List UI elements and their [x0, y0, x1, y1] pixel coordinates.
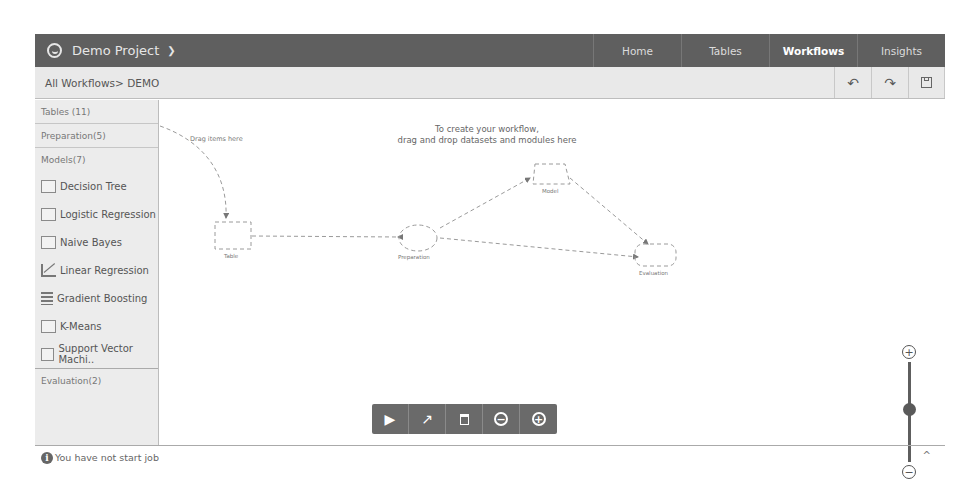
table-node [215, 222, 251, 249]
nav-tables[interactable]: Tables [681, 34, 769, 67]
chevron-down-icon: ❯ [167, 45, 175, 56]
breadcrumb-bar: All Workflows> DEMO ↶ ↷ [35, 67, 945, 99]
svm-icon [41, 348, 54, 361]
redo-button[interactable]: ↷ [871, 67, 908, 98]
nav-home[interactable]: Home [593, 34, 681, 67]
sidebar-item-naive-bayes[interactable]: Naive Bayes [35, 228, 158, 256]
sidebar-item-label: Gradient Boosting [57, 293, 147, 304]
sidebar-item-k-means[interactable]: K-Means [35, 312, 158, 340]
sidebar-item-label: Naive Bayes [60, 237, 122, 248]
zoom-knob[interactable] [903, 403, 916, 416]
table-node-label: Table [224, 253, 238, 259]
status-message: You have not start job [55, 452, 159, 463]
sidebar-item-decision-tree[interactable]: Decision Tree [35, 172, 158, 200]
minus-circle-icon: − [494, 412, 508, 426]
sidebar-item-gradient-boosting[interactable]: Gradient Boosting [35, 284, 158, 312]
top-nav-bar: Demo Project ❯ Home Tables Workflows Ins… [35, 34, 945, 67]
empty-canvas-hint: To create your workflow, drag and drop d… [322, 124, 652, 146]
sidebar-section-models[interactable]: Models(7) [35, 148, 158, 172]
zoom-out-button[interactable]: − [483, 404, 520, 434]
canvas-toolbar: ▶ ↗ − + [372, 404, 557, 434]
hint-line-1: To create your workflow, [322, 124, 652, 135]
connect-button[interactable]: ↗ [409, 404, 446, 434]
run-button[interactable]: ▶ [372, 404, 409, 434]
model-node-label: Model [542, 188, 559, 194]
model-node [533, 164, 570, 184]
evaluation-node-label: Evaluation [639, 270, 668, 276]
workflow-canvas[interactable]: Drag items here To create your workflow,… [160, 100, 945, 445]
delete-button[interactable] [446, 404, 483, 434]
gradient-boosting-icon [41, 292, 53, 305]
main-nav: Home Tables Workflows Insights [593, 34, 945, 67]
sidebar-section-preparation[interactable]: Preparation(5) [35, 124, 158, 148]
k-means-icon [41, 320, 56, 333]
sidebar-section-evaluation[interactable]: Evaluation(2) [35, 369, 158, 393]
zoom-in-button[interactable]: + [520, 404, 557, 434]
undo-icon: ↶ [847, 75, 859, 91]
workflow-tools: ↶ ↷ [834, 67, 945, 98]
preparation-node [399, 225, 437, 251]
info-icon: i [41, 452, 53, 464]
save-icon [921, 77, 932, 88]
app-window: Demo Project ❯ Home Tables Workflows Ins… [35, 34, 945, 503]
project-name: Demo Project [72, 43, 159, 58]
play-icon: ▶ [385, 411, 396, 427]
sidebar-section-tables[interactable]: Tables (11) [35, 100, 158, 124]
redo-icon: ↷ [884, 75, 896, 91]
hint-line-2: drag and drop datasets and modules here [322, 135, 652, 146]
arrow-icon: ↗ [421, 411, 433, 427]
project-selector[interactable]: Demo Project ❯ [35, 43, 593, 58]
models-group: Models(7) Decision Tree Logistic Regress… [35, 148, 158, 369]
sidebar-item-label: Decision Tree [60, 181, 127, 192]
preparation-node-label: Preparation [398, 254, 430, 260]
sidebar-item-linear-regression[interactable]: Linear Regression [35, 256, 158, 284]
plus-circle-icon: + [532, 412, 546, 426]
logistic-regression-icon [41, 208, 56, 221]
module-sidebar: Tables (11) Preparation(5) Models(7) Dec… [35, 100, 159, 445]
linear-regression-icon [41, 264, 56, 277]
zoom-in-icon[interactable]: + [902, 345, 916, 359]
sidebar-item-label: Linear Regression [60, 265, 149, 276]
drag-items-hint: Drag items here [190, 135, 243, 143]
sidebar-item-svm[interactable]: Support Vector Machi.. [35, 340, 158, 368]
workflow-diagram [160, 100, 945, 445]
nav-insights[interactable]: Insights [857, 34, 945, 67]
sidebar-item-logistic-regression[interactable]: Logistic Regression [35, 200, 158, 228]
sidebar-item-label: Logistic Regression [60, 209, 156, 220]
expand-caret-icon[interactable]: ^ [923, 450, 931, 461]
undo-button[interactable]: ↶ [834, 67, 871, 98]
sidebar-item-label: Support Vector Machi.. [58, 343, 158, 365]
trash-icon [460, 414, 469, 425]
decision-tree-icon [41, 180, 56, 193]
evaluation-node [635, 244, 676, 266]
breadcrumb[interactable]: All Workflows> DEMO [35, 77, 834, 89]
sidebar-item-label: K-Means [60, 321, 102, 332]
nav-workflows[interactable]: Workflows [769, 34, 857, 67]
naive-bayes-icon [41, 236, 56, 249]
status-bar: i You have not start job ^ [35, 445, 945, 469]
project-logo-icon [47, 43, 62, 58]
save-button[interactable] [908, 67, 945, 98]
